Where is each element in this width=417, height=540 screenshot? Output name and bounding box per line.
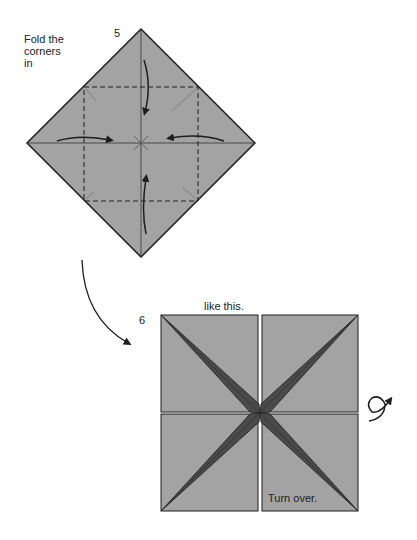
- instruction-line: corners: [24, 45, 64, 57]
- next-step-arrow: [82, 260, 128, 343]
- origami-diagram: [0, 0, 417, 540]
- turn-over-icon: [369, 397, 391, 421]
- step5-instruction: Fold the corners in: [24, 33, 64, 69]
- step6-square: [161, 315, 358, 511]
- step5-number: 5: [114, 27, 120, 39]
- instruction-line: in: [24, 57, 64, 69]
- instruction-line: Fold the: [24, 33, 64, 45]
- step6-caption: like this.: [204, 300, 244, 312]
- turn-over-label: Turn over.: [268, 492, 317, 504]
- step6-number: 6: [139, 314, 145, 326]
